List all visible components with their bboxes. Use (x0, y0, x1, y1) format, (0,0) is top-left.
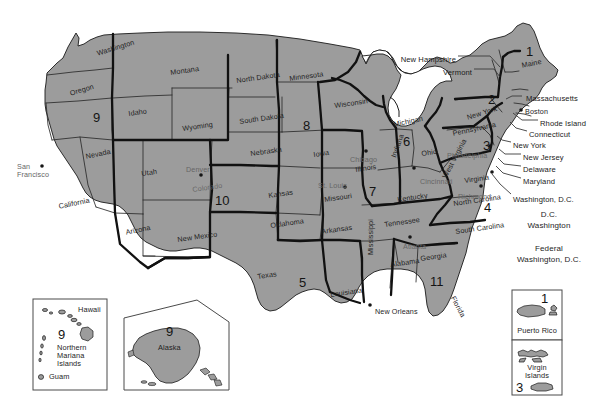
city-label-cincinnati: Cincinnati (420, 178, 453, 186)
federal-box-line1: Federal (516, 244, 582, 255)
us-mainland-shape (45, 23, 558, 316)
state-label-utah: Utah (141, 168, 157, 178)
dot-boston (519, 108, 523, 112)
leader-label-washington-d-c: Washington, D.C. (513, 196, 574, 204)
judicial-circuits-map: WashingtonOregonIdahoMontanaWyomingNevad… (0, 0, 609, 414)
circuit-number-6: 6 (403, 135, 410, 149)
guam-label: Guam (49, 373, 70, 381)
state-label-iowa: Iowa (313, 149, 329, 159)
leader-label-connecticut: Connecticut (529, 131, 570, 139)
circuit-10-oklahoma-line (210, 212, 276, 213)
virgin-islands-line2: Islands (512, 372, 562, 380)
dot-new-orleans (368, 303, 372, 307)
circuit-5-west (148, 257, 210, 268)
dot-chicago (364, 149, 368, 153)
state-label-mississippi: Mississippi (367, 219, 375, 255)
map-graphic (0, 0, 609, 414)
city-label-chicago: Chicago (350, 156, 377, 164)
federal-box-line2: Washington, D.C. (516, 255, 582, 266)
circuit-10-east-kansas (210, 165, 279, 166)
circuit-number-2: 2 (488, 93, 495, 107)
city-label-st-louis: St. Louis (318, 182, 347, 190)
city-label-philadelphia: Philadelphia (447, 152, 487, 160)
dot-cincinnati (412, 166, 416, 170)
dot-richmond (479, 184, 483, 188)
leader-label-rhode-island: Rhode Island (540, 120, 586, 128)
circuit-number-4: 4 (484, 201, 491, 215)
circuit-number-1: 1 (526, 45, 533, 59)
dc-box-line2: Washington (516, 221, 582, 232)
federal-district-box[interactable]: Federal Washington, D.C. (516, 244, 582, 266)
leader-label-new-jersey: New Jersey (523, 154, 564, 162)
leader-label-new-york: New York (513, 142, 546, 150)
city-label-atlanta: Atlanta (403, 243, 426, 251)
city-label-san-francisco: SanFrancisco (17, 163, 49, 178)
leader-label-massachusetts: Massachusetts (526, 95, 578, 103)
leader-label-new-hampshire: New Hampshire (401, 56, 456, 64)
circuit-number-10: 10 (215, 194, 230, 208)
city-label-new-orleans: New Orleans (375, 308, 418, 316)
circuit-number-9: 9 (93, 111, 100, 125)
dot-washington-dc (490, 170, 494, 174)
leader-label-delaware: Delaware (523, 166, 556, 174)
virgin-islands-label: Virgin Islands (512, 364, 562, 380)
circuit-8-south-oklahoma (278, 240, 322, 241)
puerto-rico-circuit-number: 1 (541, 292, 548, 306)
hawaii-circuit-number: 9 (58, 328, 65, 342)
dc-district-box[interactable]: D.C. Washington (516, 210, 582, 232)
circuit-number-8: 8 (303, 119, 310, 133)
hawaii-label: Hawaii (78, 306, 101, 314)
leader-label-maryland: Maryland (523, 178, 555, 186)
leader-label-vermont: Vermont (443, 69, 472, 77)
city-label-boston: Boston (525, 108, 548, 116)
nmi-line3: Islands (57, 360, 87, 368)
city-label-denver: Denver (186, 166, 210, 174)
alaska-label: Alaska (158, 344, 181, 352)
virgin-islands-circuit-number: 3 (516, 381, 523, 395)
northern-mariana-islands-label: Northern Mariana Islands (57, 344, 87, 367)
circuit-number-5: 5 (299, 276, 306, 290)
circuit-number-7: 7 (369, 185, 376, 199)
alaska-circuit-number: 9 (166, 325, 173, 339)
puerto-rico-label: Puerto Rico (512, 327, 562, 335)
circuit-number-11: 11 (430, 275, 444, 289)
dot-atlanta (408, 235, 412, 239)
contiguous-us-landmass (45, 23, 558, 316)
circuit-number-3: 3 (483, 139, 490, 153)
state-label-ohio: Ohio (421, 148, 437, 158)
dc-box-line1: D.C. (516, 210, 582, 221)
